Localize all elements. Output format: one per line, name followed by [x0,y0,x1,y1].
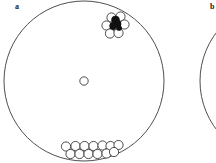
open-marker [93,149,102,158]
open-marker [75,149,84,158]
panel-a [4,1,164,161]
open-marker [84,149,93,158]
center-marker-a [80,77,88,85]
open-marker [66,149,75,158]
panel-b-label: b [210,3,214,11]
panel-b [200,1,216,161]
upper-right-cluster [102,12,129,38]
bottom-cluster [61,140,123,158]
scientific-figure: a b [0,0,216,163]
open-marker [109,147,118,156]
arena-boundary-b [200,1,216,161]
open-marker [105,29,114,38]
filled-marker-top [110,23,117,30]
figure-canvas [0,0,216,163]
panel-a-label: a [15,3,19,11]
filled-marker-top [116,25,121,30]
